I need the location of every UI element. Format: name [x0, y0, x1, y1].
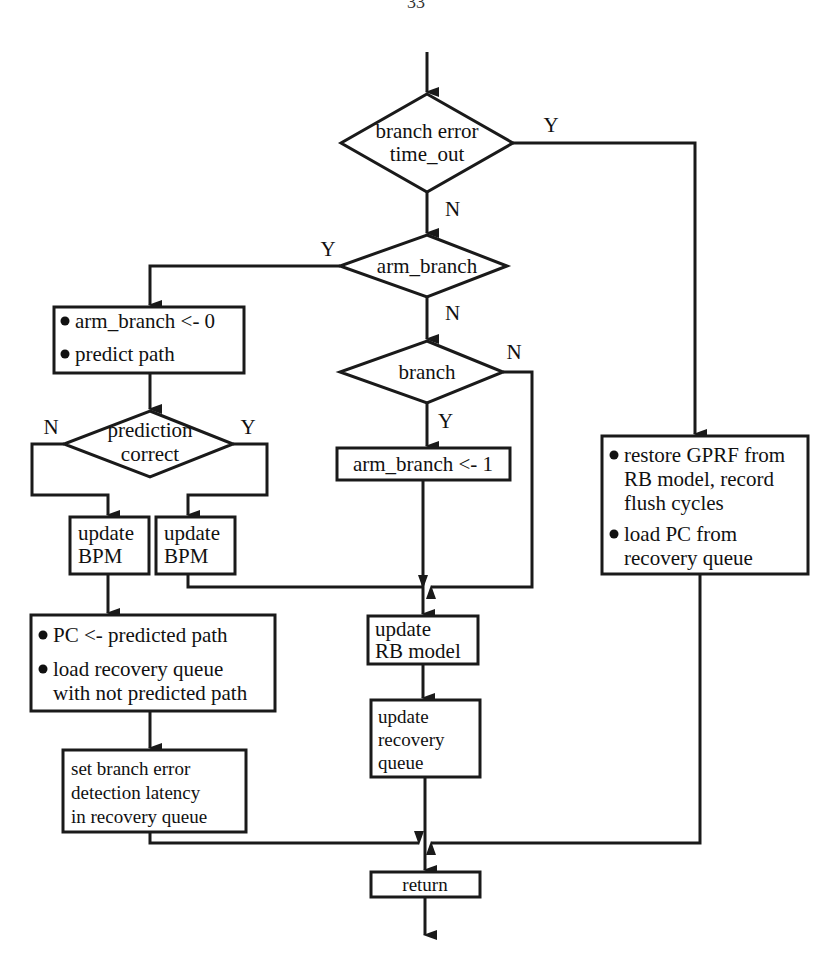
process-update-rb: update RB model — [368, 616, 478, 664]
arm-predict-bullet2: predict path — [75, 342, 175, 366]
update-bpm-n-line2: BPM — [78, 544, 123, 568]
page-number: 33 — [407, 0, 425, 12]
flowchart: 33 branch error time_out Y N arm_branch … — [0, 0, 832, 965]
bpm-correct-to-rb-connector — [188, 574, 423, 587]
process-pc-load: PC <- predicted path load recovery queue… — [31, 615, 275, 711]
update-rq-line2: recovery — [378, 729, 445, 750]
decision-prediction-line2: correct — [121, 442, 179, 466]
decision-branch-text: branch — [398, 360, 456, 384]
decision-prediction: prediction correct — [64, 411, 233, 477]
terminal-return: return — [371, 872, 480, 897]
update-rq-line1: update — [378, 706, 429, 727]
update-rb-line1: update — [375, 617, 431, 641]
restore-bullet1-line3: flush cycles — [624, 491, 724, 515]
decision-timeout: branch error time_out — [341, 94, 513, 192]
update-bpm-n-line1: update — [78, 521, 134, 545]
restore-bullet1-line1: restore GPRF from — [624, 443, 785, 467]
arm-branch-yes-connector — [150, 266, 340, 305]
arm-predict-bullet1: arm_branch <- 0 — [75, 309, 215, 333]
decision-timeout-line1: branch error — [375, 119, 478, 143]
bullet-icon — [61, 317, 70, 326]
update-bpm-y-line2: BPM — [164, 544, 209, 568]
process-update-rq: update recovery queue — [371, 700, 480, 777]
update-rb-line2: RB model — [375, 639, 461, 663]
process-update-bpm-correct: update BPM — [156, 517, 235, 574]
process-arm-predict: arm_branch <- 0 predict path — [54, 307, 244, 373]
branch-yes-label: Y — [438, 409, 453, 433]
latency-to-return-connector — [150, 832, 419, 843]
decision-arm-branch: arm_branch — [340, 235, 507, 297]
bullet-icon — [61, 350, 70, 359]
decision-arm-branch-text: arm_branch — [377, 254, 478, 278]
restore-bullet1-line2: RB model, record — [624, 467, 774, 491]
timeout-no-label: N — [445, 197, 460, 221]
process-update-bpm-mispredict: update BPM — [70, 517, 149, 574]
latency-line2: detection latency — [71, 782, 201, 803]
restore-bullet2-line1: load PC from — [624, 522, 737, 546]
return-text: return — [402, 874, 448, 895]
update-bpm-y-line1: update — [164, 521, 220, 545]
pc-load-bullet2-line1: load recovery queue — [53, 657, 223, 681]
decision-prediction-line1: prediction — [107, 418, 193, 442]
decision-branch: branch — [340, 341, 503, 403]
bullet-icon — [610, 530, 619, 539]
prediction-yes-label: Y — [240, 415, 255, 439]
timeout-yes-label: Y — [543, 113, 558, 137]
restore-bullet2-line2: recovery queue — [624, 546, 753, 570]
decision-timeout-line2: time_out — [390, 142, 465, 166]
bullet-icon — [39, 631, 48, 640]
pc-load-bullet2-line2: with not predicted path — [53, 681, 248, 705]
pc-load-bullet1: PC <- predicted path — [53, 623, 228, 647]
process-restore: restore GPRF from RB model, record flush… — [602, 436, 808, 574]
set-arm-text: arm_branch <- 1 — [353, 452, 493, 476]
arm-branch-yes-label: Y — [320, 237, 335, 261]
branch-no-label: N — [506, 340, 521, 364]
update-rq-line3: queue — [378, 752, 423, 773]
latency-line3: in recovery queue — [71, 806, 207, 827]
process-set-arm: arm_branch <- 1 — [337, 448, 510, 480]
latency-line1: set branch error — [71, 758, 191, 779]
process-set-latency: set branch error detection latency in re… — [63, 750, 246, 832]
arm-branch-no-label: N — [445, 301, 460, 325]
bullet-icon — [610, 451, 619, 460]
timeout-yes-connector — [513, 143, 695, 434]
bullet-icon — [39, 665, 48, 674]
prediction-no-label: N — [43, 415, 58, 439]
